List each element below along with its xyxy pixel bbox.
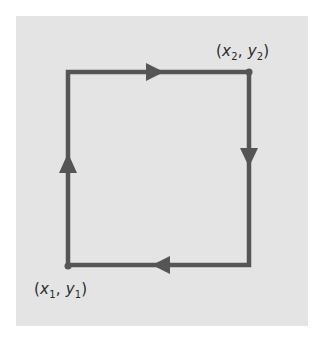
separator: , <box>238 42 248 60</box>
arrow-down-icon <box>240 148 258 167</box>
x-variable: x <box>222 42 231 60</box>
paren-close: ) <box>81 280 87 298</box>
x-variable: x <box>40 280 49 298</box>
point-1-dot <box>65 263 72 270</box>
paren-close: ) <box>263 42 269 60</box>
point-2-label: (x2, y2) <box>216 42 269 60</box>
y-variable: y <box>248 42 257 60</box>
arrow-right-icon <box>146 63 164 81</box>
point-1-label: (x1, y1) <box>34 280 87 298</box>
arrow-left-icon <box>152 256 170 274</box>
point-2-dot <box>246 69 253 76</box>
rectangular-path <box>68 72 249 265</box>
y-variable: y <box>66 280 75 298</box>
arrow-up-icon <box>59 153 77 173</box>
separator: , <box>56 280 66 298</box>
